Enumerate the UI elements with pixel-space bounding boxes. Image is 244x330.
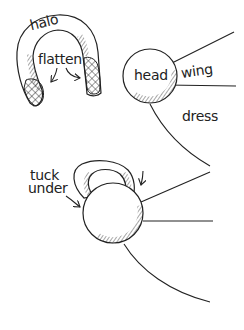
- wing-top-line-2: [141, 172, 210, 202]
- arrow-icon: [51, 68, 57, 82]
- figure-step2: [74, 161, 213, 302]
- dress-line-2: [124, 244, 210, 302]
- diagram-canvas: halo flatten head wing dress: [0, 0, 244, 330]
- dress-label: dress: [182, 108, 218, 124]
- head-label: head: [134, 67, 168, 83]
- arrow-icon: [66, 196, 80, 207]
- wing-top-line: [166, 32, 234, 66]
- wing-bottom-line: [166, 85, 236, 86]
- arrow-icon: [141, 171, 143, 185]
- flatten-label: flatten: [38, 51, 82, 67]
- arrow-icon: [66, 68, 80, 78]
- figure-step1: [123, 32, 236, 166]
- wing-label: wing: [180, 61, 214, 81]
- under-label: under: [28, 180, 68, 196]
